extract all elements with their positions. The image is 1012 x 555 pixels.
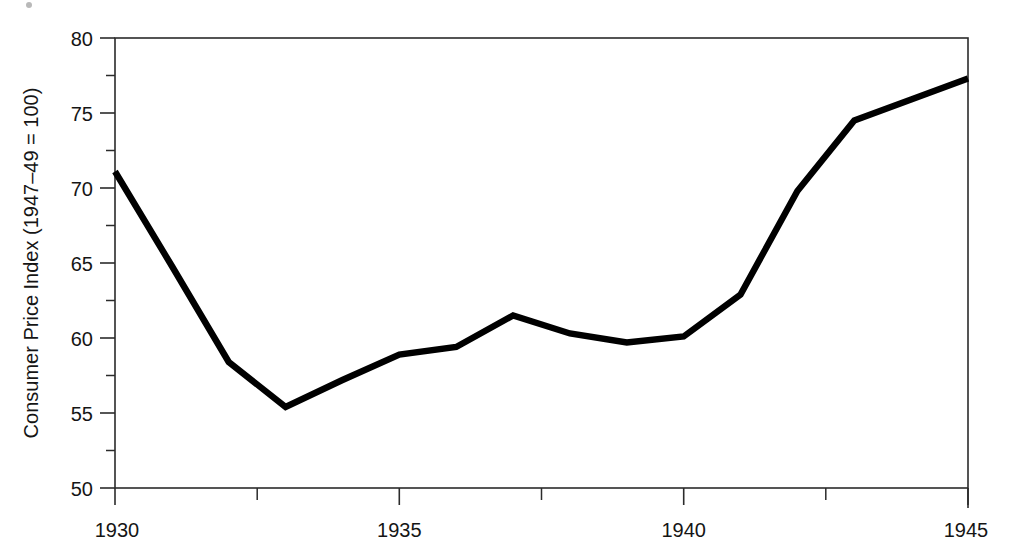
line-chart-figure: 80 75 70 65 60 55 50 1930 1935 1940 1945… bbox=[0, 0, 1012, 555]
y-tick-label-55: 55 bbox=[71, 403, 93, 425]
y-axis-title: Consumer Price Index (1947–49 = 100) bbox=[20, 88, 42, 439]
x-tick-label-1935: 1935 bbox=[377, 519, 422, 541]
y-tick-label-75: 75 bbox=[71, 103, 93, 125]
y-tick-label-70: 70 bbox=[71, 178, 93, 200]
y-tick-label-60: 60 bbox=[71, 328, 93, 350]
chart-background bbox=[0, 0, 1012, 555]
x-tick-label-1930: 1930 bbox=[95, 519, 140, 541]
y-tick-label-65: 65 bbox=[71, 253, 93, 275]
y-tick-label-50: 50 bbox=[71, 478, 93, 500]
x-tick-label-1945: 1945 bbox=[944, 519, 989, 541]
scan-artifact-speck bbox=[26, 2, 32, 8]
chart-canvas: 80 75 70 65 60 55 50 1930 1935 1940 1945… bbox=[0, 0, 1012, 555]
y-tick-label-80: 80 bbox=[71, 28, 93, 50]
x-tick-label-1940: 1940 bbox=[661, 519, 706, 541]
